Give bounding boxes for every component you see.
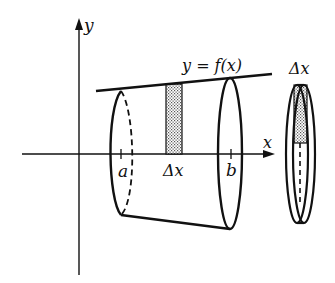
x-axis xyxy=(22,150,275,158)
curve-label: y = f(x) xyxy=(181,56,242,75)
bound-b-label: b xyxy=(226,160,237,180)
curve-bottom xyxy=(121,215,230,229)
y-axis-arrow-icon xyxy=(75,18,83,30)
y-axis xyxy=(75,18,83,275)
left-cross-section-front xyxy=(110,91,121,215)
shaded-strip xyxy=(166,84,182,154)
disk-slice xyxy=(286,85,315,223)
solid-of-revolution-diagram: y x a b Δx y = f(x) Δx xyxy=(0,0,335,283)
curve-top xyxy=(96,74,272,91)
x-axis-label: x xyxy=(263,133,272,152)
left-cross-section-back xyxy=(121,91,132,215)
disk-label: Δx xyxy=(288,59,310,78)
bound-a-label: a xyxy=(118,161,128,181)
y-axis-label: y xyxy=(83,15,94,35)
strip-label: Δx xyxy=(162,161,184,180)
